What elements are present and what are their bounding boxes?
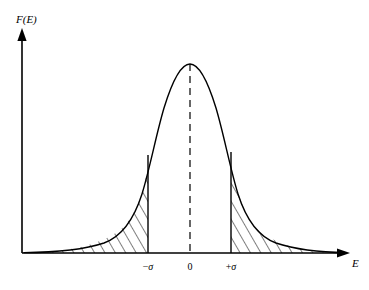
x-axis-label: E <box>352 258 359 269</box>
figure-canvas <box>0 0 369 290</box>
x-tick-label-zero: 0 <box>177 262 203 272</box>
right-tail-shaded-region <box>228 140 346 256</box>
y-axis-label: F(E) <box>16 14 37 25</box>
gaussian-distribution-figure: F(E) E −σ 0 +σ <box>0 0 369 290</box>
sigma-symbol: σ <box>231 261 236 272</box>
y-axis-arrow-icon <box>17 28 26 41</box>
left-tail-shaded-region <box>20 140 152 256</box>
gaussian-curve <box>24 64 346 253</box>
x-axis-arrow-icon <box>337 248 350 257</box>
x-tick-label-plus-sigma: +σ <box>217 262 245 272</box>
x-tick-label-minus-sigma: −σ <box>134 262 162 272</box>
y-axis <box>17 28 26 253</box>
sigma-symbol: σ <box>148 261 153 272</box>
